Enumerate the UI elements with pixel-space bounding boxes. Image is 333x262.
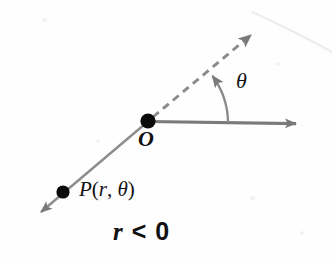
point-p-angle: θ [118,177,128,201]
angle-arc [213,76,229,122]
polar-axis-ray [148,122,296,124]
point-p-name: P [79,177,92,201]
point-p-radius: r [99,177,107,201]
point-p-open-paren: ( [92,177,99,201]
point-p-comma: , [107,177,112,201]
polar-diagram-figure: O P(r, θ) θ r < 0 [0,0,333,262]
caption-relation: < 0 [132,217,170,245]
point-p-close-paren: ) [128,177,135,201]
angle-theta-label: θ [236,70,247,92]
caption-r-less-than-zero: r < 0 [113,219,170,244]
caption-variable: r [113,218,124,245]
faint-scan-streak [252,12,332,52]
point-p-marker [56,185,69,198]
origin-label: O [138,128,154,150]
point-p-label: P(r, θ) [79,179,135,200]
